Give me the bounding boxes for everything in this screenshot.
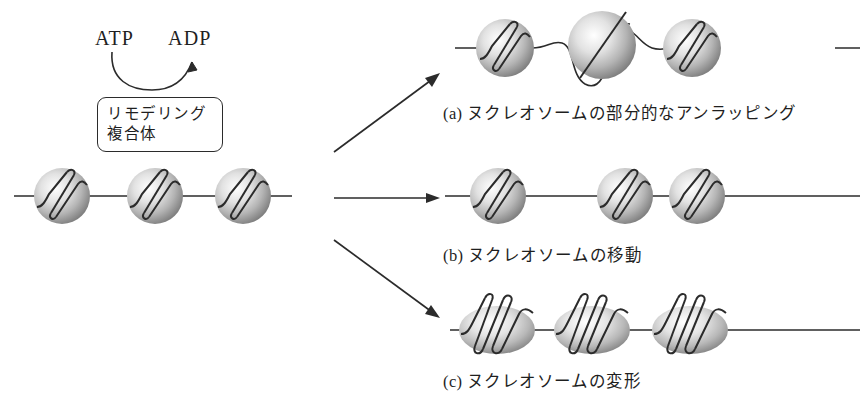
- figure-canvas: ATP ADP リモデリング 複合体: [0, 0, 860, 407]
- nucleosome-deformed: [652, 294, 728, 354]
- nucleosome: [127, 168, 183, 224]
- nucleosome: [663, 19, 721, 77]
- complex-label-line2: 複合体: [107, 124, 213, 144]
- input-chromatin-fiber: [0, 150, 320, 250]
- outcome-c-caption: (c) ヌクレオソームの変形: [443, 368, 641, 392]
- nucleosome: [597, 168, 653, 224]
- outcome-c-diagram: [440, 285, 860, 375]
- remodeling-complex-box: リモデリング 複合体: [97, 97, 223, 152]
- arrow-to-sliding: [330, 188, 450, 208]
- atp-to-adp-curved-arrow: [100, 50, 210, 102]
- nucleosome: [470, 168, 526, 224]
- outcome-a-diagram: [440, 0, 860, 95]
- nucleosome-deformed: [459, 294, 535, 354]
- outcome-b-caption: (b) ヌクレオソームの移動: [443, 242, 642, 266]
- arrow-to-deformation: [330, 232, 450, 327]
- nucleosome: [476, 19, 534, 77]
- outcome-b-diagram: [440, 150, 860, 240]
- nucleosome-unwrapped: [568, 11, 636, 79]
- nucleosome-deformed: [554, 294, 630, 354]
- atp-label: ATP: [95, 27, 134, 50]
- adp-label: ADP: [168, 27, 212, 50]
- outcome-a-caption: (a) ヌクレオソームの部分的なアンラッピング: [443, 100, 797, 124]
- nucleosome: [669, 168, 725, 224]
- arrow-to-unwrapping: [330, 70, 450, 160]
- nucleosome: [215, 168, 271, 224]
- complex-label-line1: リモデリング: [107, 104, 213, 124]
- nucleosome: [34, 168, 90, 224]
